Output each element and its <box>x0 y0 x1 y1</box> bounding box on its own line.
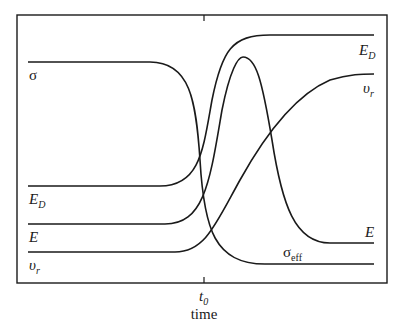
vr-right-label: υr <box>363 80 374 99</box>
e-curve <box>28 57 374 243</box>
x-axis-label: time <box>191 306 218 322</box>
sigma-label: σ <box>29 67 37 83</box>
chart: σ ED E υr ED υr E σeff t0 time <box>0 0 400 335</box>
vr-curve <box>28 74 374 252</box>
e-right-label: E <box>364 224 374 240</box>
sigma-curve <box>28 62 374 264</box>
e-left-label: E <box>28 229 38 245</box>
sigma-eff-label: σeff <box>283 244 303 263</box>
ed-right-label: ED <box>358 42 376 61</box>
ed-left-label: ED <box>28 191 46 210</box>
vr-left-label: υr <box>29 257 40 276</box>
t0-label: t0 <box>199 288 208 307</box>
